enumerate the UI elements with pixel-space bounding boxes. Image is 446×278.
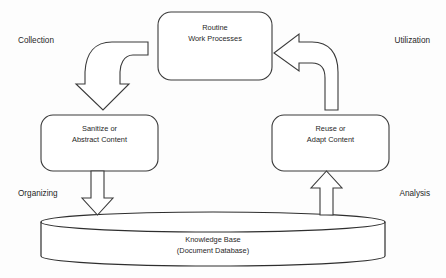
arrow-organizing-block <box>82 171 113 215</box>
node-knowledge-base[interactable]: Knowledge Base (Document Database) <box>41 212 385 266</box>
node-routine-work-processes[interactable]: Routine Work Processes <box>158 12 272 80</box>
arrow-analysis-shape <box>311 171 342 215</box>
arrow-collection-shape <box>76 42 148 110</box>
arrow-collection-curved <box>76 42 148 110</box>
knowledge-base-label-line1: Knowledge Base <box>185 235 240 244</box>
arrow-utilization-shape <box>274 34 338 110</box>
routine-box-label-line2: Work Processes <box>188 34 242 43</box>
corner-label-collection: Collection <box>18 36 54 45</box>
corner-label-utilization: Utilization <box>395 36 431 45</box>
knowledge-cycle-diagram: Routine Work Processes Sanitize or Abstr… <box>0 0 446 278</box>
corner-label-analysis: Analysis <box>400 189 431 198</box>
sanitize-box-label-line2: Abstract Content <box>72 135 127 144</box>
node-sanitize-abstract-content[interactable]: Sanitize or Abstract Content <box>41 115 158 171</box>
arrow-organizing-shape <box>82 171 113 215</box>
sanitize-box-label-line1: Sanitize or <box>82 124 117 133</box>
reuse-box-label-line2: Adapt Content <box>307 135 354 144</box>
corner-label-organizing: Organizing <box>18 189 58 198</box>
routine-box-label-line1: Routine <box>202 23 227 32</box>
reuse-box-label-line1: Reuse or <box>316 124 347 133</box>
arrow-analysis-block <box>311 171 342 215</box>
node-reuse-adapt-content[interactable]: Reuse or Adapt Content <box>272 115 389 171</box>
arrow-utilization-curved <box>274 34 338 110</box>
knowledge-base-label-line2: (Document Database) <box>177 246 249 255</box>
diagram-canvas-container: Routine Work Processes Sanitize or Abstr… <box>0 0 446 278</box>
